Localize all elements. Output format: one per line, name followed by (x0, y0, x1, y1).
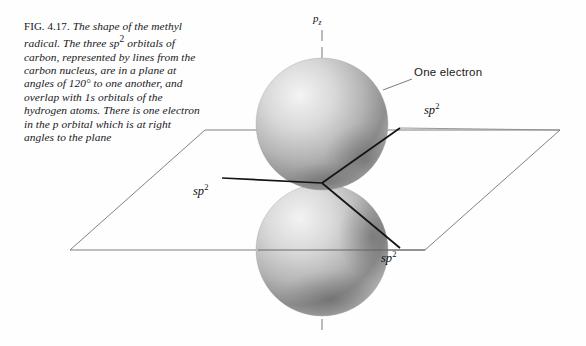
sp2-left-base: sp (193, 184, 204, 198)
sp2-lower-right-base: sp (381, 251, 392, 265)
sp2-upper-right-base: sp (424, 103, 435, 117)
orbital-diagram (0, 0, 586, 346)
sp2-lower-right-superscript: 2 (392, 249, 396, 259)
sp2-left-superscript: 2 (204, 182, 208, 192)
sp2-label-lower-right: sp2 (381, 249, 396, 266)
sp2-label-left: sp2 (193, 182, 208, 199)
sp2-label-upper-right: sp2 (424, 101, 439, 118)
one-electron-label: One electron (414, 66, 482, 78)
plane-left-edge (70, 130, 205, 250)
plane-right-edge (425, 130, 560, 250)
sp2-upper-right-superscript: 2 (435, 101, 439, 111)
figure-panel: FIG. 4.17. The shape of the methyl radic… (0, 0, 586, 346)
p-axis-subscript: z (319, 18, 322, 27)
p-axis-label: pz (313, 12, 321, 27)
one-electron-leader-line (383, 79, 412, 90)
